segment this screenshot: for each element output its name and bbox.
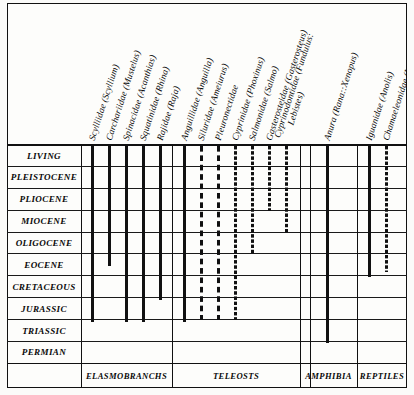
epoch-row-living: LIVING — [7, 145, 407, 167]
range-bar-siluridae — [200, 146, 203, 320]
range-bar-cyprinodontidae — [285, 146, 288, 234]
epoch-label: CRETACEOUS — [7, 276, 81, 297]
range-bar-pleuronectidae — [217, 146, 220, 320]
range-bar-gasterosteidae — [268, 146, 271, 211]
group-label-reptiles: REPTILES — [357, 364, 407, 388]
taxon-label-line1: Anura (Rana::Xenopus) — [322, 51, 360, 141]
group-label-teleosts: TELEOSTS — [172, 364, 300, 388]
group-label-amphibia: AMPHIBIA — [300, 364, 357, 388]
range-bar-rajidae — [159, 146, 162, 300]
epoch-label: LIVING — [7, 146, 81, 166]
group-label-elasmobranchs: ELASMOBRANCHS — [81, 364, 172, 388]
range-bar-cyprinidae — [234, 146, 237, 320]
taxon-label-header: Scylliidae (Scyllium)Carchariidae (Muste… — [7, 3, 407, 145]
range-bar-anura — [326, 146, 329, 343]
group-footer: ELASMOBRANCHSTELEOSTSAMPHIBIAREPTILES — [7, 364, 407, 388]
epoch-label: PERMIAN — [7, 342, 81, 363]
column-rule-amphibia-right — [357, 145, 358, 388]
epoch-row-miocene: MIOCENE — [7, 211, 407, 233]
range-chart-figure: Scylliidae (Scyllium)Carchariidae (Muste… — [0, 0, 414, 395]
range-bar-iguanidae — [368, 146, 371, 277]
epoch-row-triassic: TRIASSIC — [7, 320, 407, 342]
range-bar-scylliidae — [91, 146, 94, 322]
range-bar-squatinidae — [142, 146, 145, 322]
epoch-label: PLEISTOCENE — [7, 167, 81, 188]
range-bar-anguillidae — [183, 146, 186, 322]
epoch-row-jurassic: JURASSIC — [7, 298, 407, 320]
epoch-rows: LIVINGPLEISTOCENEPLIOCENEMIOCENEOLIGOCEN… — [7, 145, 407, 364]
epoch-row-eocene: EOCENE — [7, 254, 407, 276]
column-rule-elasmo-right — [172, 145, 173, 388]
taxon-label-anura: Anura (Rana::Xenopus) — [323, 52, 361, 142]
epoch-row-permian: PERMIAN — [7, 342, 407, 364]
column-rule-blank-2 — [310, 145, 311, 388]
epoch-label: MIOCENE — [7, 211, 81, 232]
range-bar-spinacidae — [125, 146, 128, 322]
range-bar-chamaeleonidae — [385, 146, 388, 272]
range-bar-carchariidae — [108, 146, 111, 266]
epoch-label: EOCENE — [7, 254, 81, 275]
range-bar-salmonidae — [251, 146, 254, 254]
epoch-label: PLIOCENE — [7, 189, 81, 210]
epoch-label: JURASSIC — [7, 298, 81, 319]
epoch-row-cretaceous: CRETACEOUS — [7, 276, 407, 298]
epoch-label: TRIASSIC — [7, 320, 81, 341]
epoch-row-pleistocene: PLEISTOCENE — [7, 167, 407, 189]
epoch-row-oligocene: OLIGOCENE — [7, 233, 407, 255]
column-rule-teleost-right — [300, 145, 301, 388]
epoch-label: OLIGOCENE — [7, 233, 81, 254]
epoch-row-pliocene: PLIOCENE — [7, 189, 407, 211]
